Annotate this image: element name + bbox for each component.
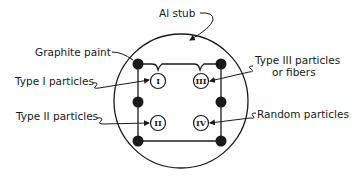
region-II: II [151, 116, 166, 131]
graphite-dot-bottom-right [216, 136, 227, 147]
region-I-label: I [156, 76, 160, 86]
label-random-particles: Random particles [257, 108, 349, 120]
graphite-dot-top-right [216, 59, 227, 70]
leader-type-3 [210, 66, 253, 81]
region-II-label: II [154, 118, 162, 128]
leader-graphite-paint [112, 52, 133, 60]
label-type-1: Type I particles [14, 75, 94, 87]
region-III-label: III [195, 76, 206, 86]
region-IV-label: IV [196, 118, 207, 128]
sample-stub-diagram: I III II IV Al stub Graphite paint Type … [0, 0, 359, 178]
region-III: III [194, 74, 209, 89]
label-type-3-line2: or fibers [272, 66, 316, 78]
label-al-stub: Al stub [159, 7, 196, 19]
region-IV: IV [194, 116, 209, 131]
leader-type-1 [93, 80, 149, 88]
label-type-2: Type II particles [15, 110, 98, 122]
leader-type-2 [97, 118, 149, 124]
label-type-3-line1: Type III particles [254, 54, 340, 66]
graphite-dot-bottom-left [133, 136, 144, 147]
region-I: I [151, 74, 166, 89]
graphite-dot-mid-left [133, 97, 144, 108]
graphite-paint-lines [138, 64, 221, 141]
graphite-dot-top-left [133, 59, 144, 70]
graphite-paint-dots [133, 59, 227, 147]
label-graphite-paint: Graphite paint [35, 46, 111, 58]
graphite-dot-mid-right [216, 97, 227, 108]
leader-random-particles [210, 113, 256, 123]
